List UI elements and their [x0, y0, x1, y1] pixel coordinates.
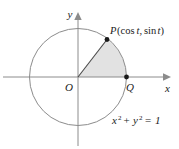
point-p-label-sin: sin [144, 25, 157, 36]
circle-equation-label: x 2 + y 2 = 1 [111, 114, 161, 127]
equation-y-exponent: 2 [139, 114, 143, 122]
x-axis-arrowhead [163, 73, 171, 81]
point-p-label: P ( cos t , sin t ) [109, 25, 165, 37]
unit-circle-diagram: y x O Q P ( cos t , sin t ) x 2 + y 2 = … [0, 0, 179, 149]
equation-equals-sign: = [145, 114, 151, 126]
point-q-marker [124, 75, 129, 80]
y-axis-arrowhead [74, 12, 81, 20]
equation-x-base: x [111, 114, 117, 126]
x-axis-label: x [164, 82, 170, 94]
shaded-sector [78, 39, 127, 77]
equation-x-exponent: 2 [118, 114, 122, 122]
equation-right-hand-side: 1 [155, 114, 161, 126]
point-p-label-cos: cos [121, 25, 135, 36]
point-p-label-paren-close: ) [161, 25, 165, 37]
point-p-label-comma: , [140, 25, 143, 36]
figure-container: y x O Q P ( cos t , sin t ) x 2 + y 2 = … [0, 0, 179, 149]
equation-plus-sign: + [124, 114, 130, 126]
point-q-label: Q [126, 81, 134, 93]
point-p-label-name: P [109, 25, 117, 36]
y-axis-label: y [67, 8, 73, 20]
origin-label: O [65, 81, 73, 93]
equation-y-base: y [132, 114, 138, 126]
point-p-marker [105, 37, 110, 42]
